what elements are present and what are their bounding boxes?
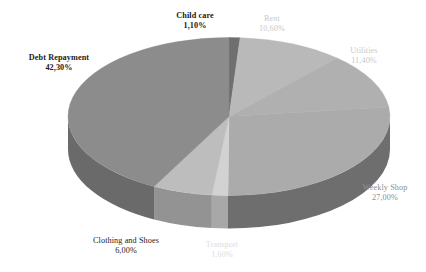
slice-label-value: 11,40% bbox=[322, 56, 406, 66]
slice-label-name: Weekly Shop bbox=[344, 183, 426, 193]
slice-label-name: Rent bbox=[230, 14, 314, 24]
slice-label-transport: Transport 1,60% bbox=[180, 240, 264, 259]
slice-label-name: Transport bbox=[180, 240, 264, 250]
slice-label-value: 42,30% bbox=[9, 63, 109, 73]
pie-chart-graphic bbox=[0, 0, 426, 272]
slice-label-name: Debt Repayment bbox=[9, 53, 109, 63]
pie-slice-side bbox=[212, 195, 228, 228]
slice-label-name: Utilities bbox=[322, 46, 406, 56]
slice-label-weekly-shop: Weekly Shop 27,00% bbox=[344, 183, 426, 202]
slice-label-rent: Rent 10,60% bbox=[230, 14, 314, 33]
slice-label-debt-repayment: Debt Repayment 42,30% bbox=[9, 53, 109, 72]
slice-label-utilities: Utilities 11,40% bbox=[322, 46, 406, 65]
slice-label-value: 6,00% bbox=[73, 246, 179, 256]
pie-chart: Child care 1,10% Rent 10,60% Utilities 1… bbox=[0, 0, 426, 272]
slice-label-value: 1,60% bbox=[180, 250, 264, 260]
slice-label-value: 10,60% bbox=[230, 24, 314, 34]
slice-label-name: Clothing and Shoes bbox=[73, 236, 179, 246]
slice-label-name: Child care bbox=[153, 11, 237, 21]
slice-label-value: 1,10% bbox=[153, 21, 237, 31]
slice-label-value: 27,00% bbox=[344, 193, 426, 203]
slice-label-child-care: Child care 1,10% bbox=[153, 11, 237, 30]
slice-label-clothing-and-shoes: Clothing and Shoes 6,00% bbox=[73, 236, 179, 255]
